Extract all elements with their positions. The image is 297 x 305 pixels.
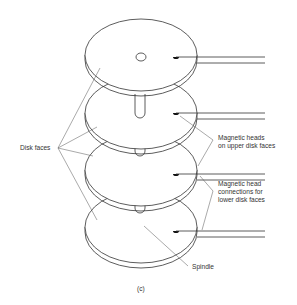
diagram-drawing (0, 0, 297, 305)
disk-faces-leaders (58, 68, 100, 220)
label-lower-heads-line3: lower disk faces (218, 196, 265, 204)
label-lower-heads-line1: Magnetic head (218, 180, 265, 188)
label-spindle: Spindle (192, 263, 214, 271)
spindle-hole-icon (136, 53, 146, 61)
label-lower-heads: Magnetic head connections for lower disk… (218, 180, 265, 204)
lower-heads-leaders (200, 176, 213, 230)
label-upper-heads: Magnetic heads on upper disk faces (218, 134, 275, 150)
label-disk-faces: Disk faces (20, 144, 50, 152)
disk-stack-diagram: Disk faces Magnetic heads on upper disk … (0, 0, 297, 305)
label-lower-heads-line2: connections for (218, 188, 265, 196)
label-upper-heads-line2: on upper disk faces (218, 142, 275, 150)
label-upper-heads-line1: Magnetic heads (218, 134, 275, 142)
figure-caption: (c) (137, 285, 145, 293)
